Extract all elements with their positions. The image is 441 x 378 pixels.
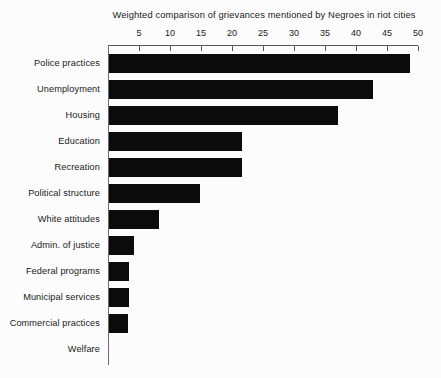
bar	[109, 236, 134, 255]
x-axis-tick-label: 20	[227, 28, 237, 38]
x-axis-tick-label: 40	[351, 28, 361, 38]
bar-row: Political structure	[0, 184, 441, 210]
x-axis-tick-label: 10	[165, 28, 175, 38]
x-axis-tick-label: 35	[320, 28, 330, 38]
bar-row: Commercial practices	[0, 314, 441, 340]
x-axis-tick	[170, 46, 171, 51]
bar-chart-figure: Weighted comparison of grievances mentio…	[0, 0, 441, 378]
bar-category-label: Political structure	[0, 184, 100, 203]
x-axis-tick-label: 30	[289, 28, 299, 38]
bar-category-label: Admin. of justice	[0, 236, 100, 255]
bar	[109, 288, 129, 307]
bar	[109, 54, 410, 73]
bar-row: Housing	[0, 106, 441, 132]
plot-area: 5101520253035404550 Police practicesUnem…	[0, 0, 441, 378]
x-axis-tick-label: 5	[136, 28, 141, 38]
x-axis-tick	[387, 46, 388, 51]
x-axis-tick	[201, 46, 202, 51]
bar-category-label: Education	[0, 132, 100, 151]
x-axis-tick-label: 50	[413, 28, 423, 38]
bar-row: Welfare	[0, 340, 441, 366]
bar-row: Federal programs	[0, 262, 441, 288]
x-axis-tick-label: 45	[382, 28, 392, 38]
x-axis-tick-label: 25	[258, 28, 268, 38]
bar	[109, 80, 373, 99]
bar-category-label: Commercial practices	[0, 314, 100, 333]
bar	[109, 210, 159, 229]
bar-row: White attitudes	[0, 210, 441, 236]
bar-row: Police practices	[0, 54, 441, 80]
bar-category-label: Unemployment	[0, 80, 100, 99]
bar-category-label: Police practices	[0, 54, 100, 73]
bar-category-label: Federal programs	[0, 262, 100, 281]
bar-row: Education	[0, 132, 441, 158]
x-axis-tick	[294, 46, 295, 51]
bar-category-label: Recreation	[0, 158, 100, 177]
bar	[109, 184, 200, 203]
bar	[109, 262, 129, 281]
x-axis-tick-label: 15	[196, 28, 206, 38]
x-axis-tick	[356, 46, 357, 51]
bar	[109, 314, 128, 333]
bar-row: Unemployment	[0, 80, 441, 106]
bar	[109, 106, 338, 125]
bar-category-label: White attitudes	[0, 210, 100, 229]
bar-row: Recreation	[0, 158, 441, 184]
bar-row: Admin. of justice	[0, 236, 441, 262]
x-axis-tick	[139, 46, 140, 51]
bar	[109, 158, 242, 177]
x-axis-tick	[418, 46, 419, 51]
bar-row: Municipal services	[0, 288, 441, 314]
x-axis-tick	[232, 46, 233, 51]
bar-category-label: Housing	[0, 106, 100, 125]
x-axis-tick	[263, 46, 264, 51]
bar-category-label: Welfare	[0, 340, 100, 359]
bar-category-label: Municipal services	[0, 288, 100, 307]
bar	[109, 132, 242, 151]
x-axis-tick	[325, 46, 326, 51]
